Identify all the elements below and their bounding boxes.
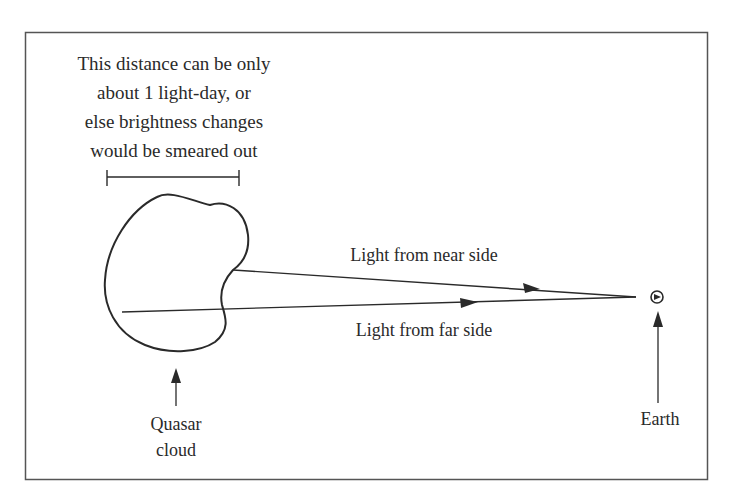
distance-caption: This distance can be only about 1 light-…: [77, 53, 271, 161]
far-side-ray: [122, 297, 636, 312]
earth-pointer-arrow: [653, 311, 663, 403]
arrow-up-icon: [653, 311, 663, 327]
scale-bar: [107, 170, 239, 186]
arrow-right-icon: [523, 283, 540, 293]
caption-line-4: would be smeared out: [90, 140, 258, 161]
earth-symbol-icon: [651, 291, 663, 303]
arrow-right-icon: [460, 298, 478, 308]
caption-line-2: about 1 light-day, or: [97, 82, 252, 103]
far-ray-label: Light from far side: [356, 320, 492, 340]
quasar-cloud-shape: [105, 195, 248, 352]
quasar-label-line-1: Quasar: [151, 414, 202, 434]
earth-label: Earth: [641, 409, 680, 429]
quasar-size-diagram: This distance can be only about 1 light-…: [0, 0, 729, 499]
quasar-label-line-2: cloud: [156, 440, 196, 460]
arrow-up-icon: [171, 368, 181, 383]
caption-line-3: else brightness changes: [85, 111, 263, 132]
caption-line-1: This distance can be only: [77, 53, 271, 74]
near-side-ray: [233, 270, 636, 297]
quasar-pointer-arrow: [171, 368, 181, 406]
near-ray-label: Light from near side: [350, 245, 497, 265]
